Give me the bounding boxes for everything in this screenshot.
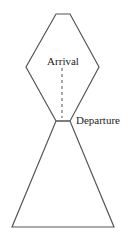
- departure-label: Departure: [76, 115, 120, 126]
- lower-trapezoid-shape: [12, 121, 114, 227]
- arrival-label: Arrival: [47, 56, 79, 67]
- hourglass-diagram: Arrival Departure: [0, 0, 128, 237]
